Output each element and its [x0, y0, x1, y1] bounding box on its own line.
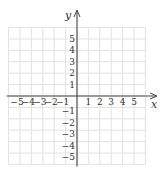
x-axis-label: x	[151, 98, 158, 111]
y-tick-label: 3	[69, 57, 75, 67]
x-tick-label: 2	[97, 97, 103, 107]
y-tick-label: 1	[69, 80, 75, 90]
tick-labels: −5−4−3−2−11234554321−1−2−3−4−5	[10, 34, 137, 162]
y-tick-label: −3	[62, 129, 76, 139]
y-tick-label: 5	[69, 34, 75, 44]
x-tick-label: 4	[120, 97, 126, 107]
y-tick-label: −5	[62, 152, 76, 162]
x-tick-label: 1	[86, 97, 92, 107]
y-tick-label: −4	[62, 141, 76, 151]
x-tick-label: 5	[131, 97, 137, 107]
y-tick-label: −2	[62, 118, 75, 128]
y-tick-label: 2	[69, 68, 75, 78]
x-tick-label: 3	[108, 97, 114, 107]
y-tick-label: 4	[69, 45, 75, 55]
y-axis-label: y	[64, 9, 72, 22]
coordinate-plane: −5−4−3−2−11234554321−1−2−3−4−5 x y	[0, 0, 165, 179]
y-tick-label: −1	[62, 106, 75, 116]
